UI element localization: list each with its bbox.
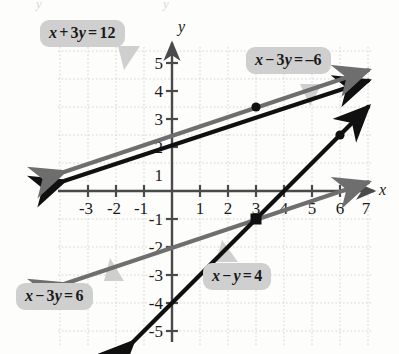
equation-label-x-plus-3y-eq-12: x+3y=12 xyxy=(40,20,125,47)
label-b-coef: 3 xyxy=(277,51,285,68)
x-axis-label: x xyxy=(379,181,386,199)
line-x-minus-3y-eq-neg6 xyxy=(64,70,368,172)
x-tick-2: 2 xyxy=(224,199,233,218)
x-tick-labels: -3 -2 -1 1 2 3 4 5 6 7 xyxy=(79,199,371,218)
y-tick-3: 3 xyxy=(155,110,164,129)
y-axis-label: y xyxy=(178,18,185,36)
x-tick--2: -2 xyxy=(107,199,121,218)
label-b-eq: = xyxy=(292,51,305,68)
x-tick-6: 6 xyxy=(336,199,345,218)
y-tick--4: -4 xyxy=(149,294,164,313)
x-tick--1: -1 xyxy=(134,199,148,218)
scan-smudge-right: y xyxy=(163,0,169,12)
label-b-op: − xyxy=(263,51,276,68)
label-d-rhs: 4 xyxy=(254,267,262,284)
label-c-coef: 3 xyxy=(47,287,55,304)
equation-label-x-minus-3y-eq-neg6: x−3y=–6 xyxy=(246,47,331,74)
y-tick-4: 4 xyxy=(155,82,164,101)
y-tick--3: -3 xyxy=(149,266,163,285)
label-c-rhs: 6 xyxy=(75,287,83,304)
label-b-var2: y xyxy=(285,51,292,68)
equation-label-x-minus-y-eq-4: x−y=4 xyxy=(203,263,271,290)
callout-tails xyxy=(104,46,322,281)
marked-point-6-2 xyxy=(335,130,344,139)
scan-smudge-left: y xyxy=(36,0,42,12)
label-d-var1: x xyxy=(212,267,220,284)
y-tick-5: 5 xyxy=(155,54,164,73)
label-a-rhs: 12 xyxy=(99,24,115,41)
label-d-var2: y xyxy=(234,267,241,284)
label-a-var1: x xyxy=(49,24,57,41)
marked-point-3-3 xyxy=(251,102,260,111)
label-c-eq: = xyxy=(62,287,75,304)
label-a-eq: = xyxy=(86,24,99,41)
equation-label-x-minus-3y-eq-6: x−3y=6 xyxy=(16,283,93,310)
label-a-op: + xyxy=(57,24,70,41)
label-d-eq: = xyxy=(241,267,254,284)
x-tick-1: 1 xyxy=(196,199,205,218)
marked-point-3-neg1 xyxy=(251,214,262,225)
y-tick-1: 1 xyxy=(155,166,164,185)
label-b-var1: x xyxy=(255,51,263,68)
label-a-coef: 3 xyxy=(71,24,79,41)
y-tick-labels: 5 4 3 2 1 -1 -2 -3 -4 -5 xyxy=(149,54,164,341)
label-c-var2: y xyxy=(55,287,62,304)
y-tick--1: -1 xyxy=(149,210,163,229)
label-d-op: − xyxy=(220,267,233,284)
axes xyxy=(58,43,374,342)
label-a-var2: y xyxy=(79,24,86,41)
x-tick--3: -3 xyxy=(79,199,93,218)
coordinate-graph-figure: -3 -2 -1 1 2 3 4 5 6 7 5 4 3 2 1 -1 -2 -… xyxy=(0,0,399,354)
x-tick-7: 7 xyxy=(362,199,371,218)
label-c-var1: x xyxy=(25,287,33,304)
label-b-rhs: –6 xyxy=(305,51,321,68)
label-c-op: − xyxy=(33,287,46,304)
line-x-plus-3y-eq-12 xyxy=(64,81,368,181)
